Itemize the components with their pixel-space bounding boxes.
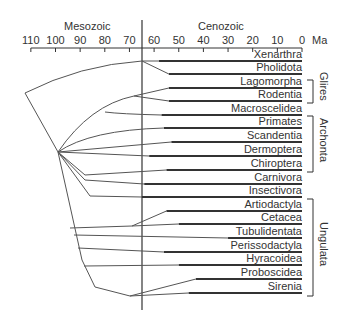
branch-line	[58, 152, 85, 180]
taxon-label-perissodactyla: Perissodactyla	[230, 239, 302, 251]
branch-line	[78, 248, 164, 252]
tick-label: 0	[299, 34, 305, 46]
branch-line	[58, 142, 171, 152]
tick-label: 60	[148, 34, 160, 46]
phylogeny-diagram: Mesozoic Cenozoic 1101009080706050403020…	[0, 0, 348, 321]
taxon-label-dermoptera: Dermoptera	[244, 143, 302, 155]
taxon-label-artiodactyla: Artiodactyla	[245, 198, 302, 210]
tick-label: 100	[46, 34, 64, 46]
clade-label-glires: Glires	[318, 72, 330, 101]
branch-line	[82, 260, 95, 287]
branch-line	[142, 61, 169, 74]
taxon-label-lagomorpha: Lagomorpha	[240, 75, 302, 87]
taxon-label-rodentia: Rodentia	[258, 88, 302, 100]
taxon-label-macroscelidea: Macroscelidea	[231, 102, 302, 114]
clade-label-ungulata: Ungulata	[318, 222, 330, 266]
era-label-cenozoic: Cenozoic	[198, 20, 244, 32]
taxon-label-hyracoidea: Hyracoidea	[246, 252, 302, 264]
branch-line	[132, 224, 179, 226]
branch-line	[84, 265, 179, 266]
branch-line	[25, 93, 58, 152]
tick-label: 110	[22, 34, 40, 46]
branch-curve	[25, 61, 142, 93]
taxon-label-primates: Primates	[259, 115, 302, 127]
branch-line	[134, 96, 169, 101]
tick-label: 50	[173, 34, 185, 46]
clade-label-archonta: Archonta	[318, 118, 330, 162]
branch-line	[95, 287, 130, 296]
branch-line	[134, 88, 169, 96]
taxon-label-chiroptera: Chiroptera	[251, 157, 302, 169]
taxon-label-pholidota: Pholidota	[256, 61, 302, 73]
taxon-label-proboscidea: Proboscidea	[241, 266, 302, 278]
branch-line	[70, 226, 132, 228]
branch-line	[85, 170, 166, 175]
taxon-label-xenarthra: Xenarthra	[254, 48, 302, 60]
branch-line	[58, 152, 149, 156]
tick-label: 70	[123, 34, 135, 46]
axis-unit-label: Ma	[312, 34, 327, 46]
tick-label: 30	[222, 34, 234, 46]
taxon-label-sirenia: Sirenia	[268, 280, 302, 292]
taxon-label-carnivora: Carnivora	[254, 171, 302, 183]
tick-label: 40	[197, 34, 209, 46]
branch-line	[85, 180, 144, 184]
tick-label: 90	[74, 34, 86, 46]
taxon-label-scandentia: Scandentia	[247, 129, 302, 141]
branch-curve	[105, 112, 161, 115]
tick-label: 10	[271, 34, 283, 46]
taxon-label-tubulidentata: Tubulidentata	[236, 225, 302, 237]
tick-label: 20	[247, 34, 259, 46]
branch-line	[132, 211, 166, 226]
era-label-mesozoic: Mesozoic	[64, 20, 110, 32]
tick-label: 80	[99, 34, 111, 46]
branch-curve	[58, 96, 134, 152]
taxon-label-cetacea: Cetacea	[261, 211, 302, 223]
branch-line	[74, 235, 228, 238]
branch-line	[90, 196, 142, 197]
taxon-label-insectivora: Insectivora	[249, 184, 302, 196]
